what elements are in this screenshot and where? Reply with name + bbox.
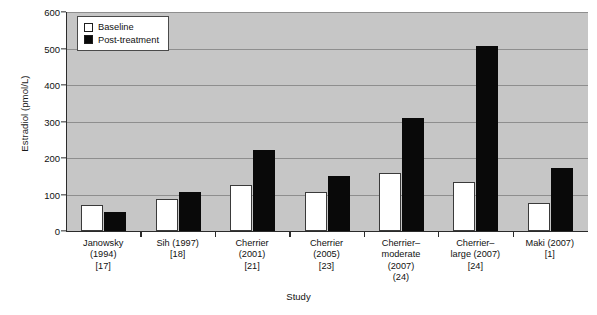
x-tick-label: Cherrier(2001)[21] [209,238,295,272]
x-tick-label: Janowsky(1994)[17] [60,238,146,272]
bar-baseline [156,199,178,231]
bar-baseline [81,205,103,231]
x-tick-label: Cherrier–moderate(2007)(24) [358,238,444,284]
x-tick-label: Cherrier–large (2007)[24] [432,238,518,272]
bar-post-treatment [253,150,275,231]
x-tick-label: Maki (2007)[1] [507,238,593,261]
bar-post-treatment [179,192,201,231]
bar-group [453,12,499,231]
y-tick-label: 500 [0,43,60,54]
bar-baseline [453,182,475,231]
y-tick-label: 600 [0,7,60,18]
legend-swatch-baseline [84,23,93,32]
y-tick-label: 100 [0,189,60,200]
x-tick-mark [140,232,141,237]
legend-label-post-treatment: Post-treatment [98,34,159,47]
x-axis-title: Study [0,291,597,302]
bar-post-treatment [402,118,424,231]
bar-post-treatment [104,212,126,231]
y-tick-label: 300 [0,116,60,127]
x-tick-label: Cherrier(2005)[23] [284,238,370,272]
bar-post-treatment [551,168,573,231]
x-tick-mark [513,232,514,237]
y-tick-label: 400 [0,80,60,91]
figure: Estradiol (pmol/L) 0100200300400500600 J… [0,0,597,315]
bar-post-treatment [476,46,498,231]
x-tick-mark [215,232,216,237]
bar-group [379,12,425,231]
y-tick-label: 200 [0,153,60,164]
bar-group [230,12,276,231]
bar-group [528,12,574,231]
legend-item-post-treatment: Post-treatment [84,34,159,47]
x-tick-mark [289,232,290,237]
bar-post-treatment [328,176,350,231]
bar-group [305,12,351,231]
bar-baseline [528,203,550,231]
legend-item-baseline: Baseline [84,21,159,34]
bar-baseline [379,173,401,231]
bar-baseline [305,192,327,231]
legend-swatch-post-treatment [84,35,93,44]
legend: Baseline Post-treatment [77,16,169,51]
x-tick-mark [364,232,365,237]
y-tick-label: 0 [0,226,60,237]
x-tick-mark [438,232,439,237]
legend-label-baseline: Baseline [98,21,134,34]
bar-baseline [230,185,252,231]
x-tick-label: Sih (1997)[18] [135,238,221,261]
